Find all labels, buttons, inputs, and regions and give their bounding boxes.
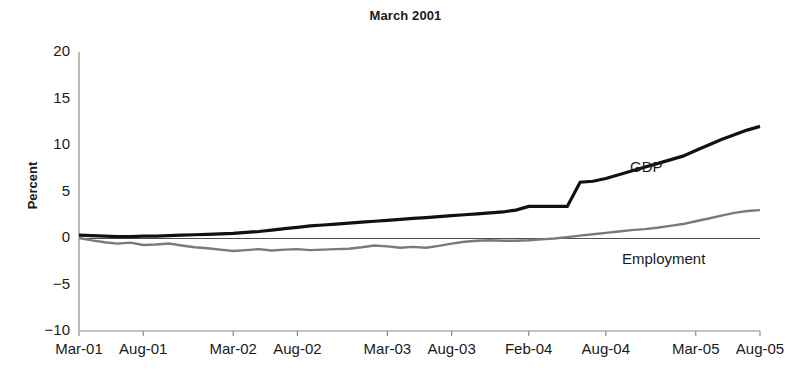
series-line-employment [79,210,760,251]
chart-container: March 2001 Percent 20151050−5−10 Mar-01A… [0,0,811,384]
series-label-gdp: GDP [630,158,663,175]
series-line-gdp [79,126,760,236]
data-series-layer [79,126,760,251]
series-label-employment: Employment [622,250,705,267]
axis-lines [79,52,760,331]
x-axis-tick-marks [79,331,760,336]
plot-area [0,0,811,384]
